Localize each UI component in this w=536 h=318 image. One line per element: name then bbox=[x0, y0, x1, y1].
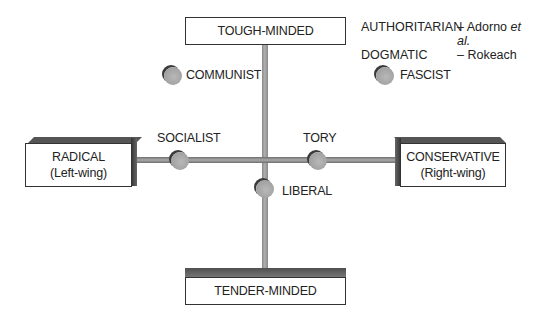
radical-box: RADICAL (Left-wing) bbox=[25, 143, 132, 187]
radical-label: RADICAL bbox=[52, 149, 105, 165]
tory-node-icon bbox=[309, 152, 327, 170]
right-wing-label: (Right-wing) bbox=[421, 165, 486, 181]
tory-label: TORY bbox=[303, 131, 336, 145]
legend-row-authoritarian: AUTHORITARIAN – Adorno et al. bbox=[361, 20, 536, 48]
tough-minded-label: TOUGH-MINDED bbox=[218, 23, 314, 39]
conservative-box: CONSERVATIVE (Right-wing) bbox=[400, 143, 506, 187]
socialist-label: SOCIALIST bbox=[157, 131, 221, 145]
legend-source: – Rokeach bbox=[457, 48, 517, 62]
socialist-node-icon bbox=[171, 152, 189, 170]
legend-row-dogmatic: DOGMATIC – Rokeach bbox=[361, 48, 536, 62]
fascist-node-icon bbox=[376, 67, 394, 85]
conservative-label: CONSERVATIVE bbox=[406, 149, 499, 165]
left-wing-label: (Left-wing) bbox=[50, 165, 107, 181]
legend-term: AUTHORITARIAN bbox=[361, 20, 457, 48]
fascist-label: FASCIST bbox=[400, 68, 451, 82]
legend: AUTHORITARIAN – Adorno et al. DOGMATIC –… bbox=[361, 20, 536, 62]
legend-source: – Adorno et al. bbox=[457, 20, 536, 48]
legend-term: DOGMATIC bbox=[361, 48, 457, 62]
communist-node-icon bbox=[164, 67, 182, 85]
liberal-label: LIBERAL bbox=[282, 184, 332, 198]
tough-minded-box: TOUGH-MINDED bbox=[185, 17, 346, 45]
tender-minded-label: TENDER-MINDED bbox=[214, 283, 316, 299]
communist-label: COMMUNIST bbox=[186, 68, 261, 82]
liberal-node-icon bbox=[256, 180, 274, 198]
tender-minded-box: TENDER-MINDED bbox=[185, 277, 346, 305]
